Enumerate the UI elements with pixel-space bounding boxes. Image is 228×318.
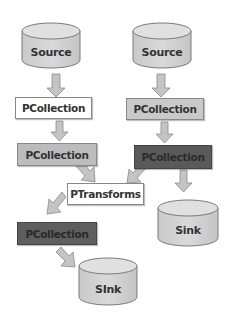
pcollection-right-2-box: PCollection xyxy=(134,145,212,169)
arrow-down-icon xyxy=(152,74,170,97)
arrow-down-icon xyxy=(51,121,68,141)
sink-bottom-label: SInk xyxy=(79,283,137,296)
pcollection-left-1-box: PCollection xyxy=(15,97,92,119)
sink-bottom-cylinder xyxy=(79,258,137,305)
arrow-diagonal-icon xyxy=(56,247,75,267)
arrow-down-icon xyxy=(175,170,192,192)
arrow-down-icon xyxy=(156,122,173,143)
sink-right-cylinder xyxy=(158,200,218,246)
source-right-label: Source xyxy=(133,46,191,59)
source-left-label: Source xyxy=(22,46,80,59)
pcollection-left-2-box: PCollection xyxy=(17,143,97,166)
arrow-down-icon xyxy=(47,74,65,97)
pcollection-left-3-box: PCollection xyxy=(17,222,97,245)
ptransforms-box: PTransforms xyxy=(67,183,144,205)
sink-right-label: Sink xyxy=(158,224,218,237)
pcollection-right-1-box: PCollection xyxy=(126,98,204,120)
arrow-diagonal-icon xyxy=(47,192,66,214)
